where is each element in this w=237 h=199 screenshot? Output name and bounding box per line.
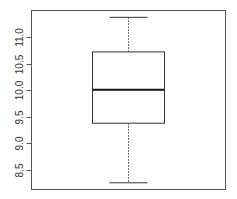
y-tick-label: 9.0: [14, 136, 25, 150]
y-tick-label: 10.0: [14, 80, 25, 100]
y-tick-label: 11.0: [14, 28, 25, 47]
iqr-box: [93, 52, 165, 123]
y-axis: 8.59.09.510.010.511.0: [14, 28, 32, 178]
y-tick-label: 9.5: [14, 110, 25, 124]
boxplot-chart: 8.59.09.510.010.511.0: [0, 0, 237, 199]
y-tick-label: 8.5: [14, 163, 25, 177]
y-tick-label: 10.5: [14, 54, 25, 74]
boxes-group: [93, 17, 165, 182]
